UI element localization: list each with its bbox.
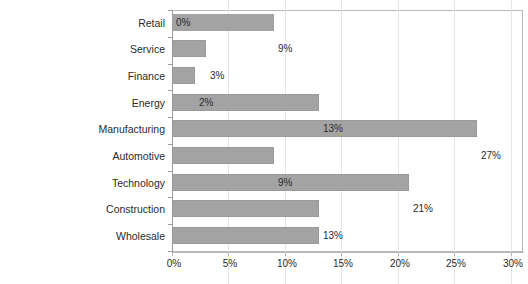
x-tick-mark-10 — [285, 252, 286, 256]
x-tick-label-5: 5% — [223, 258, 237, 270]
x-axis-group: 0% 5% 10% 15% 20% 25% 30% — [86, 0, 528, 284]
x-tick-mark-0 — [172, 252, 173, 256]
x-tick-label-15: 15% — [333, 258, 353, 270]
x-tick-mark-30 — [511, 252, 512, 256]
x-tick-label-0: 0% — [167, 258, 181, 270]
x-tick-mark-15 — [341, 252, 342, 256]
x-tick-mark-20 — [398, 252, 399, 256]
x-tick-label-10: 10% — [277, 258, 297, 270]
x-tick-label-20: 20% — [390, 258, 410, 270]
x-tick-mark-5 — [228, 252, 229, 256]
x-tick-label-30: 30% — [503, 258, 523, 270]
x-tick-mark-25 — [454, 252, 455, 256]
x-tick-label-25: 25% — [446, 258, 466, 270]
